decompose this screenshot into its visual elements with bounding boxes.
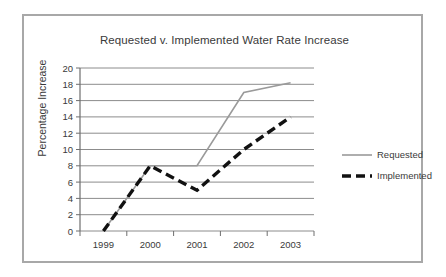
legend-item-requested: Requested (342, 144, 428, 165)
gridlines-group (80, 68, 314, 231)
y-tick-label: 6 (68, 177, 73, 188)
y-tick-label: 16 (62, 95, 73, 106)
series-line-requested (103, 83, 290, 231)
y-tick-label: 12 (62, 128, 73, 139)
y-tick-label: 4 (68, 193, 73, 204)
legend-label-requested: Requested (377, 149, 423, 160)
legend-swatch-requested-icon (342, 149, 372, 161)
y-tick-label: 0 (68, 226, 73, 237)
y-tick-label: 18 (62, 79, 73, 90)
y-tick-label: 2 (68, 209, 73, 220)
y-tick-label: 10 (62, 144, 73, 155)
x-tick-label: 2000 (140, 239, 161, 250)
legend-swatch-implemented-icon (342, 170, 372, 182)
y-tick-label: 14 (62, 111, 73, 122)
y-tick-label: 20 (62, 63, 73, 74)
chart-frame: Requested v. Implemented Water Rate Incr… (22, 14, 423, 263)
x-tick-label: 2002 (233, 239, 254, 250)
x-tick-labels-group: 19992000200120022003 (93, 239, 301, 250)
chart-legend: Requested Implemented (342, 144, 428, 186)
x-tick-label: 2003 (280, 239, 301, 250)
legend-label-implemented: Implemented (377, 170, 432, 181)
y-tick-labels-group: 02468101214161820 (62, 63, 73, 237)
series-line-implemented (103, 117, 290, 231)
x-tick-label: 2001 (186, 239, 207, 250)
x-tick-label: 1999 (93, 239, 114, 250)
x-tickmarks-group (80, 231, 314, 236)
y-tick-label: 8 (68, 160, 73, 171)
legend-item-implemented: Implemented (342, 165, 428, 186)
plot-area: 02468101214161820 19992000200120022003 (24, 16, 425, 265)
